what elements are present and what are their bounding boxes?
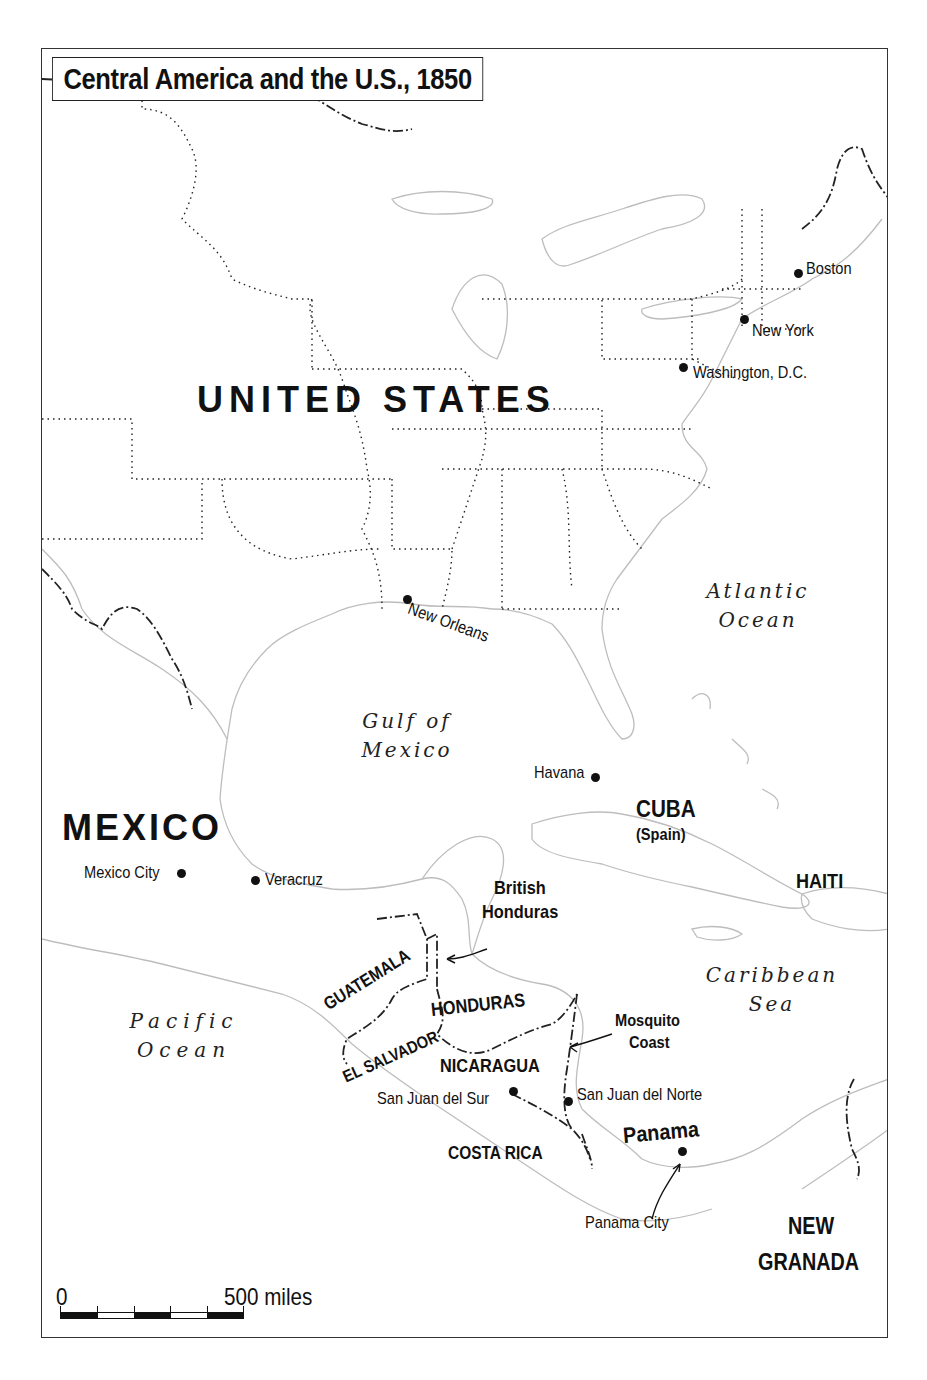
scale-tick — [97, 1306, 98, 1319]
scale-segment — [134, 1313, 170, 1318]
city-marker-havana — [591, 773, 600, 782]
label-cuba: CUBA — [636, 795, 696, 823]
label-united-states: UNITED STATES — [197, 379, 556, 421]
city-marker-mexico-city — [177, 869, 186, 878]
label-panama-city: Panama City — [585, 1213, 669, 1233]
label-mosquito-coast-2: Coast — [629, 1033, 670, 1053]
scale-tick — [243, 1306, 244, 1319]
map-title: Central America and the U.S., 1850 — [52, 57, 483, 101]
scale-bar — [60, 1312, 244, 1319]
label-caribbean-sea-2: Sea — [692, 990, 852, 1019]
label-caribbean-sea-1: Caribbean — [692, 961, 852, 990]
map-frame: Central America and the U.S., 1850 UNITE… — [41, 48, 888, 1338]
scale-tick — [207, 1306, 208, 1319]
city-marker-boston — [794, 269, 803, 278]
label-cuba-spain: (Spain) — [636, 825, 686, 845]
label-british-honduras-2: Honduras — [482, 901, 558, 923]
city-marker-new-york — [740, 315, 749, 324]
label-mosquito-coast-1: Mosquito — [615, 1011, 680, 1031]
scale-tick — [134, 1306, 135, 1319]
label-washington: Washington, D.C. — [693, 363, 807, 383]
scale-segment — [97, 1313, 133, 1318]
label-atlantic-ocean-2: Ocean — [702, 606, 814, 635]
label-new-granada-2: GRANADA — [758, 1249, 859, 1276]
city-marker-san-juan-del-norte — [564, 1097, 573, 1106]
label-nicaragua: NICARAGUA — [440, 1055, 540, 1077]
city-marker-washington — [679, 363, 688, 372]
state-borders — [42, 84, 802, 609]
label-british-honduras-1: British — [494, 877, 546, 899]
city-marker-veracruz — [251, 876, 260, 885]
label-san-juan-del-norte: San Juan del Norte — [577, 1085, 702, 1105]
label-caribbean-sea: Caribbean Sea — [692, 961, 852, 1019]
label-pacific-ocean-2: Ocean — [114, 1036, 254, 1065]
label-atlantic-ocean-1: Atlantic — [702, 577, 814, 606]
leader-arrows — [447, 949, 680, 1219]
scale-end-label: 500 miles — [224, 1283, 312, 1311]
label-new-granada-1: NEW — [788, 1213, 834, 1240]
scale-tick — [170, 1306, 171, 1319]
label-boston: Boston — [806, 259, 852, 279]
label-costa-rica: COSTA RICA — [448, 1143, 543, 1164]
label-pacific-ocean: Pacific Ocean — [114, 1007, 254, 1065]
label-gulf-of-mexico: Gulf of Mexico — [347, 707, 467, 765]
scale-segment — [170, 1313, 206, 1318]
label-mexico: MEXICO — [62, 807, 222, 849]
city-marker-panama-city — [678, 1147, 687, 1156]
label-new-york: New York — [752, 321, 814, 341]
label-havana: Havana — [534, 763, 584, 783]
scale-tick — [60, 1306, 61, 1319]
label-haiti: HAITI — [796, 869, 843, 893]
label-pacific-ocean-1: Pacific — [114, 1007, 254, 1036]
label-veracruz: Veracruz — [265, 870, 323, 890]
city-marker-san-juan-del-sur — [509, 1087, 518, 1096]
scale-segment — [207, 1313, 243, 1318]
label-mexico-city: Mexico City — [84, 863, 160, 883]
label-gulf-of-mexico-2: Mexico — [347, 736, 467, 765]
label-atlantic-ocean: Atlantic Ocean — [702, 577, 814, 635]
label-san-juan-del-sur: San Juan del Sur — [377, 1089, 489, 1109]
label-gulf-of-mexico-1: Gulf of — [347, 707, 467, 736]
scale-segment — [61, 1313, 97, 1318]
scale-start-label: 0 — [56, 1283, 67, 1311]
